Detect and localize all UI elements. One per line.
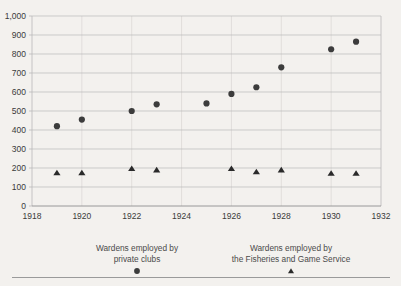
x-tick-label-1932: 1932 bbox=[372, 211, 391, 221]
legend-private-clubs: Wardens employed by private clubs bbox=[62, 243, 212, 276]
y-tick-label-0: 0 bbox=[21, 201, 26, 211]
legend-fisheries-game-service: Wardens employed by the Fisheries and Ga… bbox=[206, 243, 376, 276]
y-tick-label-500: 500 bbox=[12, 106, 26, 116]
data-point-private-clubs bbox=[328, 46, 334, 52]
y-tick-label-800: 800 bbox=[12, 49, 26, 59]
data-point-private-clubs bbox=[353, 39, 359, 45]
data-point-private-clubs bbox=[228, 91, 234, 97]
series-fisheries-game-points bbox=[53, 166, 359, 176]
data-point-fisheries-game bbox=[352, 170, 359, 176]
data-point-private-clubs bbox=[129, 108, 135, 114]
circle-marker-icon bbox=[131, 266, 143, 276]
y-tick-label-1000: 1,000 bbox=[5, 11, 27, 21]
series-private-clubs-points bbox=[54, 39, 359, 130]
x-axis-tick-labels: 19181920192219241926192819301932 bbox=[23, 211, 391, 221]
x-tick-label-1928: 1928 bbox=[272, 211, 291, 221]
x-tick-label-1930: 1930 bbox=[322, 211, 341, 221]
data-point-fisheries-game bbox=[53, 170, 60, 176]
y-tick-label-200: 200 bbox=[12, 163, 26, 173]
x-tick-label-1924: 1924 bbox=[172, 211, 191, 221]
y-tick-label-600: 600 bbox=[12, 87, 26, 97]
data-point-private-clubs bbox=[253, 84, 259, 90]
data-point-fisheries-game bbox=[328, 170, 335, 176]
y-tick-label-700: 700 bbox=[12, 68, 26, 78]
y-axis-tick-labels: 01002003004005006007008009001,000 bbox=[5, 11, 32, 211]
x-tick-label-1922: 1922 bbox=[122, 211, 141, 221]
data-point-private-clubs bbox=[79, 116, 85, 122]
x-tick-label-1918: 1918 bbox=[23, 211, 42, 221]
legend-fisheries-line1: Wardens employed by bbox=[206, 243, 376, 254]
legend-private-clubs-line1: Wardens employed by bbox=[62, 243, 212, 254]
y-tick-label-300: 300 bbox=[12, 144, 26, 154]
bottom-divider bbox=[12, 277, 390, 278]
legend-private-clubs-line2: private clubs bbox=[62, 254, 212, 265]
data-point-private-clubs bbox=[54, 123, 60, 129]
data-point-private-clubs bbox=[203, 100, 209, 106]
triangle-marker-icon bbox=[285, 266, 297, 276]
data-point-fisheries-game bbox=[253, 169, 260, 175]
x-tick-label-1920: 1920 bbox=[72, 211, 91, 221]
y-tick-label-900: 900 bbox=[12, 30, 26, 40]
x-tick-label-1926: 1926 bbox=[222, 211, 241, 221]
data-point-private-clubs bbox=[278, 64, 284, 70]
data-point-fisheries-game bbox=[78, 170, 85, 176]
legend-fisheries-line2: the Fisheries and Game Service bbox=[206, 254, 376, 265]
y-tick-label-400: 400 bbox=[12, 125, 26, 135]
chart-container: 01002003004005006007008009001,000 191819… bbox=[0, 0, 401, 286]
data-point-private-clubs bbox=[154, 101, 160, 107]
y-tick-label-100: 100 bbox=[12, 182, 26, 192]
